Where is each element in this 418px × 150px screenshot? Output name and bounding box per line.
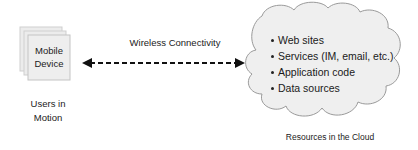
list-item: Data sources (271, 80, 394, 96)
users-caption-line1: Users in (18, 97, 78, 111)
cloud-item-label: Services (IM, email, etc.) (278, 50, 394, 62)
bullet-icon (271, 39, 274, 42)
device-label-line1: Mobile (28, 44, 70, 57)
list-item: Web sites (271, 32, 394, 48)
cloud-resources-list: Web sites Services (IM, email, etc.) App… (271, 32, 394, 96)
cloud-item-label: Application code (278, 66, 355, 78)
bullet-icon (271, 87, 274, 90)
bullet-icon (271, 71, 274, 74)
list-item: Services (IM, email, etc.) (271, 48, 394, 64)
users-caption-line2: Motion (18, 111, 78, 125)
mobile-cloud-diagram: Mobile Device Users in Motion Wireless C… (0, 0, 418, 150)
wireless-connection-arrow-icon (82, 58, 245, 68)
users-in-motion-caption: Users in Motion (18, 97, 78, 125)
list-item: Application code (271, 64, 394, 80)
cloud-item-label: Data sources (278, 82, 340, 94)
bullet-icon (271, 55, 274, 58)
device-label-line2: Device (28, 57, 70, 70)
cloud-caption: Resources in the Cloud (270, 131, 390, 143)
wireless-connectivity-label: Wireless Connectivity (110, 37, 240, 49)
cloud-item-label: Web sites (278, 34, 324, 46)
mobile-device-label: Mobile Device (28, 44, 70, 70)
